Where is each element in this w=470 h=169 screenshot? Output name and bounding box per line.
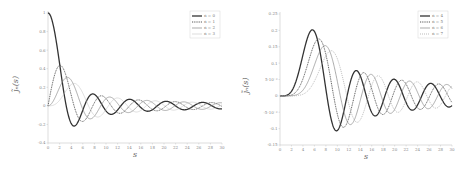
- x-tick-label: 28: [208, 145, 214, 150]
- y-tick-label: 0.2: [271, 28, 278, 33]
- x-axis-label: s: [364, 152, 368, 161]
- y-tick-label: 0.1: [271, 61, 277, 66]
- y-tick-label: 0.25: [269, 11, 278, 16]
- y-tick-label: 0.8: [39, 29, 46, 34]
- series-line-n=3: [48, 83, 222, 117]
- x-tick-label: 12: [346, 147, 352, 152]
- legend-label: n = 4: [432, 13, 443, 18]
- y-tick-label: -0.15: [267, 142, 278, 147]
- x-tick-label: 22: [173, 145, 179, 150]
- x-tick-label: 10: [335, 147, 341, 152]
- x-tick-label: 18: [150, 145, 156, 150]
- x-tick-label: 14: [358, 147, 364, 152]
- x-tick-label: 0: [47, 145, 50, 150]
- x-tick-label: 16: [138, 145, 144, 150]
- x-tick-label: 20: [161, 145, 167, 150]
- series-line-n=1: [48, 65, 222, 121]
- x-tick-label: 12: [115, 145, 121, 150]
- x-tick-label: 22: [404, 147, 410, 152]
- x-axis-label: s: [133, 150, 137, 159]
- legend-label: n = 0: [204, 13, 215, 18]
- y-tick-label: 0.2: [39, 85, 46, 90]
- y-tick-label: 0: [43, 103, 46, 108]
- chart-2: 024681012141618202224262830-0.15-0.1-5·1…: [241, 11, 455, 161]
- x-tick-label: 8: [93, 145, 96, 150]
- y-tick-label: -0.2: [38, 122, 46, 127]
- x-tick-label: 6: [82, 145, 85, 150]
- series-line-n=6: [280, 46, 452, 125]
- y-tick-label: 0.4: [39, 66, 46, 71]
- legend-label: n = 3: [204, 31, 215, 36]
- x-tick-label: 26: [196, 145, 202, 150]
- y-axis-label: j̃ₙ(s): [241, 77, 250, 95]
- x-tick-label: 30: [449, 147, 455, 152]
- x-tick-label: 28: [438, 147, 444, 152]
- bessel-charts: 024681012141618202224262830-0.4-0.200.20…: [0, 0, 470, 169]
- legend-label: n = 2: [204, 25, 215, 30]
- x-tick-label: 4: [70, 145, 73, 150]
- x-tick-label: 10: [103, 145, 109, 150]
- legend-label: n = 7: [432, 31, 443, 36]
- x-tick-label: 24: [185, 145, 191, 150]
- legend: n = 0n = 1n = 2n = 3: [190, 11, 220, 38]
- x-tick-label: 20: [392, 147, 398, 152]
- y-tick-label: -0.4: [38, 140, 46, 145]
- y-tick-label: 5·10⁻²: [265, 77, 278, 82]
- legend-label: n = 1: [204, 19, 215, 24]
- y-tick-label: -0.1: [270, 126, 278, 131]
- x-tick-label: 2: [58, 145, 61, 150]
- x-tick-label: 2: [290, 147, 293, 152]
- x-tick-label: 18: [381, 147, 387, 152]
- x-tick-label: 24: [415, 147, 421, 152]
- y-tick-label: 0.15: [269, 44, 278, 49]
- legend: n = 4n = 5n = 6n = 7: [418, 11, 448, 38]
- y-axis-label: j̃ₙ(s): [11, 76, 20, 94]
- x-tick-label: 6: [313, 147, 316, 152]
- y-tick-label: 0.6: [39, 48, 46, 53]
- y-tick-label: 1: [43, 10, 46, 15]
- y-tick-label: 0: [275, 93, 278, 98]
- x-tick-label: 16: [369, 147, 375, 152]
- series-line-n=5: [280, 39, 452, 127]
- x-tick-label: 26: [427, 147, 433, 152]
- x-tick-label: 30: [219, 145, 225, 150]
- y-tick-label: -5·10⁻²: [264, 110, 278, 115]
- x-tick-label: 14: [127, 145, 133, 150]
- legend-label: n = 5: [432, 19, 443, 24]
- legend-label: n = 6: [432, 25, 443, 30]
- x-tick-label: 8: [325, 147, 328, 152]
- x-tick-label: 4: [302, 147, 305, 152]
- x-tick-label: 0: [279, 147, 282, 152]
- chart-1: 024681012141618202224262830-0.4-0.200.20…: [11, 10, 225, 159]
